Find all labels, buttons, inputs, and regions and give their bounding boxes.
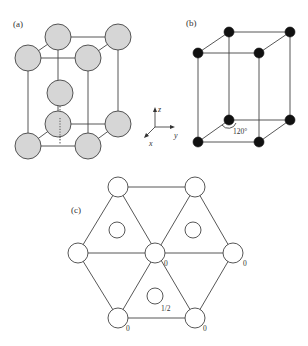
atom-bottom-back-right xyxy=(105,111,131,137)
atom-interior-upper-left xyxy=(109,222,125,238)
atom-bottom-front-right xyxy=(75,133,101,159)
atom-bottom-back-left xyxy=(45,111,71,137)
panel-b-hexagonal-lattice: (b) 120° xyxy=(186,18,295,147)
lattice-point-bottom-back-right xyxy=(285,115,295,125)
atom-vertex-right xyxy=(223,243,243,263)
height-label-interior: 1/2 xyxy=(161,304,171,313)
panel-b-label: (b) xyxy=(186,18,197,28)
atom-interior-bottom xyxy=(147,288,163,304)
atom-interior xyxy=(47,80,73,106)
height-label-bottom-left: 0 xyxy=(126,324,130,333)
atom-top-front-right xyxy=(75,45,101,71)
panel-b-edges xyxy=(198,32,290,142)
y-arrow-icon xyxy=(170,125,175,129)
x-axis-label: x xyxy=(148,139,153,148)
height-label-right: 0 xyxy=(243,259,247,268)
atom-vertex-bottom-left xyxy=(108,308,128,328)
atom-top-front-left xyxy=(15,45,41,71)
panel-c-label: (c) xyxy=(71,205,81,215)
atom-vertex-bottom-right xyxy=(185,308,205,328)
lattice-point-top-back-right xyxy=(285,27,295,37)
z-axis-label: z xyxy=(157,105,162,114)
lattice-point-bottom-front-left xyxy=(193,137,203,147)
axis-triad: z y x xyxy=(144,105,178,148)
panel-c-basal-plane: (c) 0 0 0 0 1/2 xyxy=(68,177,247,333)
lattice-point-bottom-front-right xyxy=(254,137,264,147)
crystal-structure-figure: (a) z xyxy=(0,0,308,346)
lattice-point-top-front-left xyxy=(193,48,203,58)
z-arrow-icon xyxy=(153,107,157,112)
atom-vertex-top-left xyxy=(108,177,128,197)
panel-a-hcp-cell: (a) xyxy=(13,19,131,159)
lattice-point-top-front-right xyxy=(254,48,264,58)
atom-vertex-top-right xyxy=(185,177,205,197)
atom-top-back-right xyxy=(105,24,131,50)
height-label-center: 0 xyxy=(164,259,168,268)
atom-vertex-center xyxy=(145,243,165,263)
panel-a-label: (a) xyxy=(13,19,23,29)
lattice-point-bottom-back-left xyxy=(224,115,234,125)
atom-top-back-left xyxy=(45,24,71,50)
y-axis-label: y xyxy=(173,131,178,140)
atom-interior-upper-right xyxy=(185,222,201,238)
angle-label: 120° xyxy=(233,127,247,136)
atom-bottom-front-left xyxy=(15,133,41,159)
lattice-point-top-back-left xyxy=(224,27,234,37)
atom-vertex-left xyxy=(68,243,88,263)
height-label-bottom-right: 0 xyxy=(203,324,207,333)
